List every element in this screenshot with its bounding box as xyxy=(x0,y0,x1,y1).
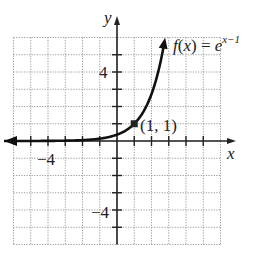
point-label: (1, 1) xyxy=(140,116,177,135)
curve-arrowhead-icon xyxy=(159,38,168,50)
function-label: f(x) = ex−1 xyxy=(173,33,240,55)
y-tick-label-neg4: −4 xyxy=(91,203,110,222)
exponential-graph: y x −4 4 −4 (1, 1) f(x) = ex−1 xyxy=(0,0,261,262)
curve-left-arrowhead-icon xyxy=(4,136,17,146)
function-exponent: x−1 xyxy=(221,33,240,45)
function-equals: = xyxy=(197,36,215,55)
y-axis-label: y xyxy=(102,8,112,27)
point-marker xyxy=(131,120,138,127)
x-tick-label-neg4: −4 xyxy=(37,150,56,169)
y-tick-label-4: 4 xyxy=(99,63,108,82)
y-axis-arrow-icon xyxy=(114,16,120,25)
x-axis-label: x xyxy=(226,144,235,163)
